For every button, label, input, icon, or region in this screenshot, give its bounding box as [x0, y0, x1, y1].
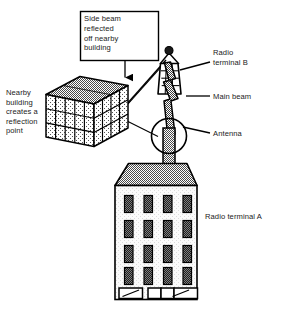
- label-radio-terminal-a: Radio terminal A: [205, 212, 285, 222]
- diagram-canvas: Nearby building creates a reflection poi…: [0, 0, 286, 309]
- leader-lines: [180, 62, 210, 133]
- callout-text: Side beam reflected off nearby building: [84, 14, 156, 53]
- radio-terminal-a-building: [115, 164, 198, 300]
- label-nearby-building: Nearby building creates a reflection poi…: [6, 88, 68, 136]
- leader-terminal-b: [180, 62, 210, 70]
- label-radio-terminal-b: Radio terminal B: [213, 48, 283, 67]
- label-antenna: Antenna: [213, 129, 283, 139]
- leader-antenna: [183, 127, 210, 133]
- label-main-beam: Main beam: [213, 92, 283, 102]
